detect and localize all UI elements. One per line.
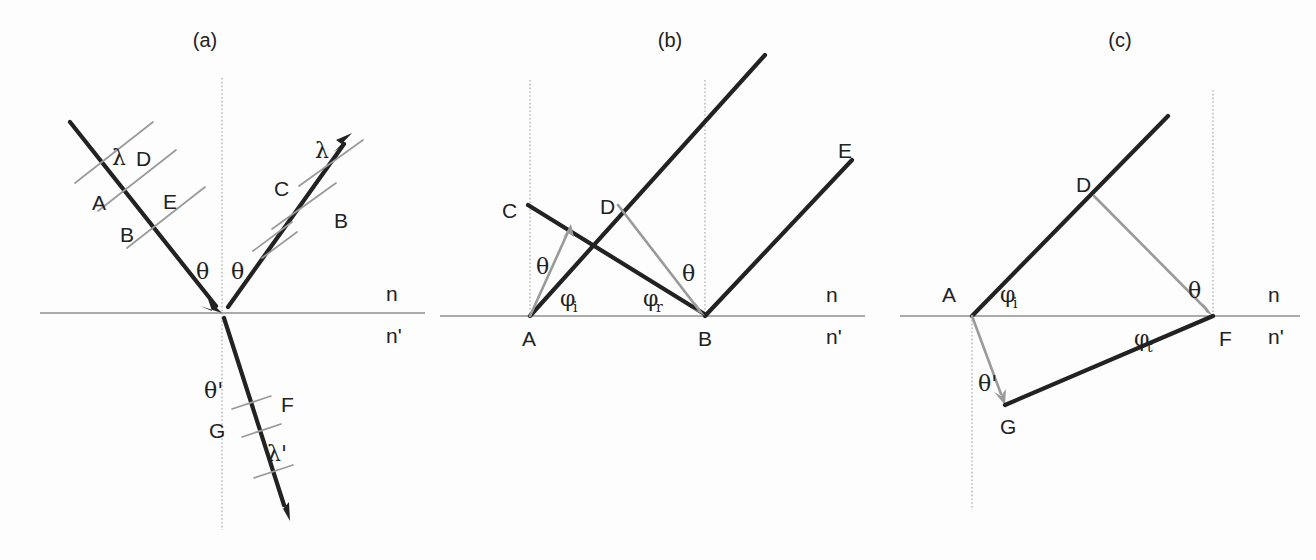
medium-n-label: n	[826, 283, 838, 306]
theta-prime-label: θ'	[204, 378, 223, 403]
incident-point-E: E	[163, 190, 177, 213]
theta-left-label: θ	[536, 254, 549, 279]
svg-text:i: i	[1013, 295, 1018, 311]
point-A-label: A	[522, 327, 536, 350]
medium-n-prime-label: n'	[826, 325, 842, 348]
panel-c-label: (c)	[1108, 29, 1131, 51]
phi-i-label: φ i	[560, 286, 578, 315]
panel-a-label: (a)	[193, 29, 217, 51]
refracted-ray	[224, 318, 290, 521]
point-G-label: G	[1000, 415, 1016, 438]
phi-r-label: φ r	[643, 286, 663, 315]
incident-lambda-label: λ	[112, 145, 126, 170]
point-E-label: E	[838, 139, 852, 162]
theta-prime-label: θ'	[978, 371, 997, 396]
reflected-point-C: C	[274, 177, 289, 200]
reflected-wavefront-2	[299, 140, 363, 186]
point-A-label: A	[942, 283, 956, 306]
panel-b-label: (b)	[658, 29, 682, 51]
svg-text:t: t	[1147, 339, 1153, 355]
phi-i-label: φ i	[1000, 282, 1018, 311]
medium-n-prime-label: n'	[1268, 325, 1284, 348]
theta-label: θ	[1188, 278, 1201, 303]
transmitted-wavefront-GF	[1005, 316, 1213, 405]
refracted-point-F: F	[281, 393, 294, 416]
svg-text:r: r	[656, 299, 663, 315]
refracted-lambda-prime-label: λ'	[267, 441, 287, 466]
panel-c: (c) A D F G θ θ' φ i	[880, 0, 1316, 560]
point-D-label: D	[600, 195, 615, 218]
svg-text:i: i	[573, 299, 578, 315]
panel-b: (b) A B C D E θ θ φ i	[440, 0, 880, 560]
panel-a: (a) λ D A E B C λ B	[0, 0, 440, 560]
theta-right-label: θ	[682, 261, 695, 286]
medium-n-prime-label: n'	[386, 324, 402, 347]
phi-t-label: φ t	[1134, 326, 1153, 355]
figure-root: (a) λ D A E B C λ B	[0, 0, 1316, 560]
incident-point-D: D	[136, 147, 151, 170]
theta-incident-label: θ	[196, 259, 209, 284]
incident-point-B: B	[120, 223, 134, 246]
refracted-point-G: G	[209, 419, 225, 442]
medium-n-label: n	[386, 282, 398, 305]
theta-reflected-label: θ	[231, 259, 244, 284]
point-F-label: F	[1219, 327, 1232, 350]
point-B-label: B	[698, 327, 712, 350]
medium-n-label: n	[1268, 283, 1280, 306]
incident-point-A: A	[92, 191, 106, 214]
reflected-point-B: B	[334, 209, 348, 232]
point-C-label: C	[502, 199, 517, 222]
point-D-label: D	[1076, 173, 1091, 196]
reflected-lambda-label: λ	[315, 138, 329, 163]
